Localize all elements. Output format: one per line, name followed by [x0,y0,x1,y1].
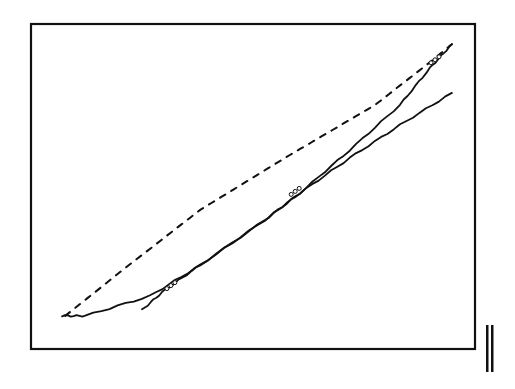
series-layer [62,44,452,316]
glyph-bar-left [486,325,489,372]
crossing-marker [173,281,177,285]
crossing-marker [289,192,293,196]
solid-upper-curve [62,44,452,316]
glyph-bar-right [491,325,494,372]
crossing-marker [165,287,169,291]
crossing-marker [429,61,433,65]
plot-frame [31,24,475,349]
crossing-marker [169,284,173,288]
solid-lower-curve [142,93,452,309]
dashed-curve [65,44,452,316]
crossing-marker [293,189,297,193]
crossing-marker [433,58,437,62]
crossing-marker [297,186,301,190]
chart [0,0,515,389]
double-bar-glyph [486,325,494,372]
marker-layer [165,55,441,291]
crossing-marker [437,55,441,59]
